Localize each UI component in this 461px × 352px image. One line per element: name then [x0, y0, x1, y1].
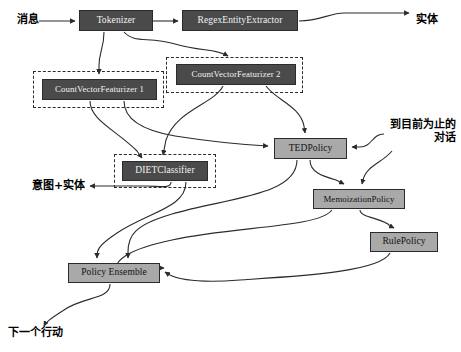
node-ted-policy[interactable]: TEDPolicy — [274, 138, 347, 159]
node-count-vector-featurizer-1-label: CountVectorFeaturizer 1 — [55, 85, 144, 94]
node-regex-entity-extractor-label: RegexEntityExtractor — [198, 16, 283, 26]
node-policy-ensemble[interactable]: Policy Ensemble — [68, 263, 160, 283]
node-memoization-policy-label: MemoizationPolicy — [323, 195, 394, 204]
node-regex-entity-extractor[interactable]: RegexEntityExtractor — [182, 10, 298, 31]
edge-memoization-to-rule — [360, 210, 394, 228]
edge-tokenizer-to-cvf1 — [99, 32, 104, 74]
label-output-next-action: 下一个行动 — [8, 327, 63, 340]
edge-cvf1-to-diet — [90, 101, 142, 158]
label-input-message: 消息 — [17, 14, 39, 27]
node-count-vector-featurizer-2-label: CountVectorFeaturizer 2 — [191, 70, 280, 79]
label-output-intent-entities: 意图+实体 — [32, 180, 85, 193]
edge-diet-to-ensemble — [97, 182, 186, 258]
node-ted-policy-label: TEDPolicy — [289, 144, 333, 154]
node-tokenizer-label: Tokenizer — [97, 16, 136, 26]
edge-ensemble-to-next-action — [44, 284, 110, 326]
edge-cvf2-to-ted — [266, 86, 305, 133]
label-output-entities: 实体 — [416, 14, 438, 27]
edge-cvf2-to-diet — [163, 86, 223, 155]
edge-tokenizer-to-cvf2 — [124, 32, 228, 56]
node-tokenizer[interactable]: Tokenizer — [79, 10, 153, 31]
label-input-conversation-so-far: 到目前为止的对话 — [384, 119, 456, 145]
node-policy-ensemble-label: Policy Ensemble — [81, 268, 147, 278]
node-rule-policy-label: RulePolicy — [382, 237, 425, 247]
node-rule-policy[interactable]: RulePolicy — [370, 232, 438, 252]
node-count-vector-featurizer-1[interactable]: CountVectorFeaturizer 1 — [42, 79, 157, 100]
node-memoization-policy[interactable]: MemoizationPolicy — [313, 189, 405, 209]
edge-rule-to-ensemble — [165, 253, 390, 281]
node-diet-classifier[interactable]: DIETClassifier — [122, 161, 208, 181]
pipeline-diagram: Tokenizer RegexEntityExtractor CountVect… — [0, 0, 461, 352]
edge-memoization-to-ensemble — [116, 210, 332, 268]
edge-conversation-to-memoization — [362, 151, 392, 184]
edge-conversation-to-ted — [352, 134, 384, 147]
node-count-vector-featurizer-2[interactable]: CountVectorFeaturizer 2 — [176, 64, 296, 85]
edge-ted-to-memoization — [310, 160, 344, 184]
edge-regex-to-entities — [299, 13, 409, 21]
edge-layer — [0, 0, 461, 352]
node-diet-classifier-label: DIETClassifier — [135, 166, 194, 176]
